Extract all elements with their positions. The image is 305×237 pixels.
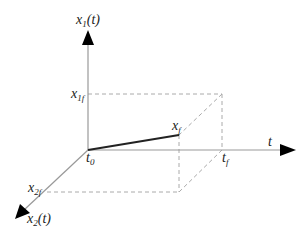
origin-t0-label: t0 [86, 150, 95, 167]
top-diagonal-dashed [179, 94, 222, 135]
x2-axis-label: x2(t) [26, 211, 51, 228]
t-axis-arrow-icon [280, 144, 296, 156]
trajectory-line [88, 135, 179, 150]
x1f-label: x1f [70, 86, 86, 103]
x1-axis-label: x1(t) [75, 12, 100, 29]
x2f-label: x2f [27, 180, 43, 197]
tf-label: tf [222, 150, 230, 167]
axes [24, 42, 282, 210]
xf-label: xf [171, 118, 182, 135]
axes-diagram: x1(t) x1f xf t t0 tf x2f x2(t) [0, 0, 305, 237]
tf-diagonal-dashed [179, 150, 222, 192]
t-axis-label: t [268, 134, 273, 149]
diagram-canvas: x1(t) x1f xf t t0 tf x2f x2(t) [0, 0, 305, 237]
x1-axis-arrow-icon [82, 30, 94, 45]
